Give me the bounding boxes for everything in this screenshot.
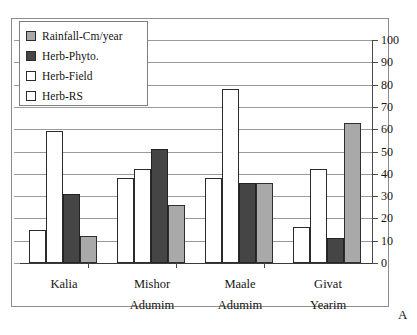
bar (327, 238, 344, 263)
x-label-line2: Adumim (108, 298, 196, 312)
legend-item-3[interactable]: Herb-RS (26, 86, 147, 106)
legend-label: Herb-RS (42, 90, 83, 102)
bar (293, 227, 310, 263)
legend-item-2[interactable]: Herb-Field (26, 66, 147, 86)
bar (117, 178, 134, 263)
bar (80, 236, 97, 263)
legend-label: Herb-Field (42, 70, 92, 82)
gridline-0 (20, 263, 372, 264)
y-tick-0 (372, 263, 378, 264)
x-label-line1: Givat (314, 277, 342, 291)
bar (205, 178, 222, 263)
y-tick-100 (372, 40, 378, 41)
y-tick-50 (372, 152, 378, 153)
bar (46, 131, 63, 263)
category-separator (176, 263, 177, 268)
y-tick-60 (372, 129, 378, 130)
legend-swatch-icon (26, 71, 36, 81)
bar-group-maale-adumim (205, 40, 273, 263)
legend-swatch-icon (26, 51, 36, 61)
y-tick-30 (372, 196, 378, 197)
y-tick-label-90: 90 (381, 56, 393, 68)
bar-group-givat-yearim (293, 40, 361, 263)
x-tick-label-maale-adumim: MaaleAdumim (196, 277, 284, 312)
y-tick-label-60: 60 (381, 123, 393, 135)
bar-chart-figure: 1009080706050403020100 KaliaMishorAdumim… (0, 0, 417, 335)
y-tick-20 (372, 218, 378, 219)
y-tick-80 (372, 85, 378, 86)
x-label-line1: Maale (224, 277, 255, 291)
legend-item-0[interactable]: Rainfall-Cm/year (26, 26, 147, 46)
y-tick-label-80: 80 (381, 79, 393, 91)
y-tick-label-40: 40 (381, 168, 393, 180)
y-tick-label-10: 10 (381, 235, 393, 247)
bar (63, 194, 80, 263)
legend-label: Herb-Phyto. (42, 50, 99, 62)
bar (29, 230, 46, 263)
x-label-line1: Kalia (50, 277, 77, 291)
y-tick-label-30: 30 (381, 190, 393, 202)
x-tick-label-mishor-adumim: MishorAdumim (108, 277, 196, 312)
legend-label: Rainfall-Cm/year (42, 30, 122, 42)
category-separator (264, 263, 265, 268)
y-tick-40 (372, 174, 378, 175)
bar (134, 169, 151, 263)
x-tick-label-kalia: Kalia (20, 277, 108, 291)
y-tick-label-50: 50 (381, 146, 393, 158)
category-separator (88, 263, 89, 268)
bar (310, 169, 327, 263)
chart-legend: Rainfall-Cm/yearHerb-Phyto.Herb-FieldHer… (19, 21, 148, 106)
legend-swatch-icon (26, 91, 36, 101)
y-tick-label-20: 20 (381, 212, 393, 224)
x-tick-label-givat-yearim: GivatYearim (284, 277, 372, 312)
x-label-line1: Mishor (134, 277, 170, 291)
y-tick-label-70: 70 (381, 101, 393, 113)
bar (344, 123, 361, 263)
bar (222, 89, 239, 263)
x-label-line2: Yearim (284, 298, 372, 312)
y-tick-label-100: 100 (381, 34, 399, 46)
bar (256, 183, 273, 263)
legend-swatch-icon (26, 31, 36, 41)
panel-letter: A (398, 308, 407, 321)
bar (168, 205, 185, 263)
x-label-line2: Adumim (196, 298, 284, 312)
legend-item-1[interactable]: Herb-Phyto. (26, 46, 147, 66)
bar (151, 149, 168, 263)
bar (239, 183, 256, 263)
y-tick-label-0: 0 (381, 257, 387, 269)
y-tick-10 (372, 241, 378, 242)
y-tick-70 (372, 107, 378, 108)
y-tick-90 (372, 62, 378, 63)
left-tick-0 (14, 263, 20, 264)
